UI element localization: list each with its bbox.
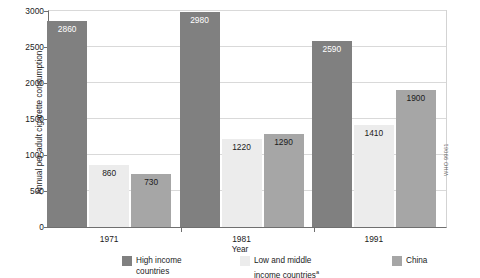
legend-label: High income countries	[136, 256, 182, 277]
y-tick-label: 1000	[4, 150, 44, 160]
legend-swatch	[392, 256, 402, 266]
y-tick-label: 500	[4, 186, 44, 196]
bar: 1410	[354, 125, 394, 227]
x-tick-label: 1981	[212, 234, 272, 244]
x-axis-title: Year	[0, 245, 480, 254]
y-tick-label: 0	[4, 222, 44, 232]
bar-value-label: 2590	[312, 44, 352, 54]
bar-value-label: 1220	[222, 142, 262, 152]
bar-value-label: 1900	[396, 93, 436, 103]
legend-label: China	[406, 256, 427, 267]
bar: 2980	[180, 12, 220, 227]
y-tick-label: 1500	[4, 114, 44, 124]
legend-swatch	[240, 256, 250, 266]
bar: 730	[131, 174, 171, 227]
source-note: WHO 99061	[443, 106, 449, 176]
bar: 2590	[312, 41, 352, 227]
bar-value-label: 2980	[180, 15, 220, 25]
bar: 2860	[47, 21, 87, 227]
y-tick-label: 2000	[4, 78, 44, 88]
bar-value-label: 1290	[264, 137, 304, 147]
bar: 1220	[222, 139, 262, 227]
x-tick-mark	[181, 228, 182, 232]
x-tick-label: 1971	[79, 234, 139, 244]
bar: 860	[89, 165, 129, 227]
legend-item[interactable]: Low and middle income countriesa	[240, 256, 319, 278]
bars-layer: 2860860730298012201290259014101900	[49, 11, 446, 227]
legend-label: Low and middle income countriesa	[254, 256, 319, 278]
bar-value-label: 860	[89, 168, 129, 178]
bar-value-label: 1410	[354, 128, 394, 138]
bar: 1290	[264, 134, 304, 227]
bar-value-label: 730	[131, 177, 171, 187]
y-tick-label: 2500	[4, 42, 44, 52]
legend-footnote-marker: a	[316, 269, 319, 275]
legend-item[interactable]: China	[392, 256, 427, 267]
bar-value-label: 2860	[47, 24, 87, 34]
x-tick-label: 1991	[344, 234, 404, 244]
bar: 1900	[396, 90, 436, 227]
legend-item[interactable]: High income countries	[122, 256, 182, 277]
x-tick-mark	[314, 228, 315, 232]
y-tick-label: 3000	[4, 6, 44, 16]
cigarette-consumption-bar-chart: Annual per adult cigarette consumption 0…	[0, 0, 480, 278]
chart-legend: High income countriesLow and middle inco…	[122, 256, 422, 278]
legend-swatch	[122, 256, 132, 266]
